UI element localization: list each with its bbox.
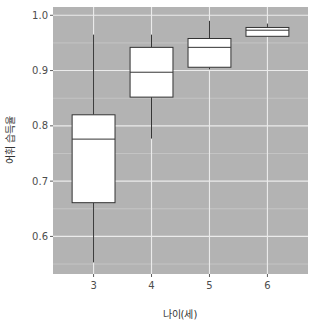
box-iqr (188, 39, 231, 68)
x-axis: 3456 (90, 274, 270, 291)
box-iqr (72, 115, 115, 203)
x-tick-label: 3 (90, 280, 96, 291)
x-tick-label: 5 (206, 280, 212, 291)
x-tick-label: 4 (148, 280, 154, 291)
boxplot-chart: 0.60.70.80.91.0 3456 나이(세) 어휘 습득율 (0, 0, 318, 327)
y-tick-label: 0.8 (32, 120, 48, 131)
y-tick-label: 0.9 (32, 65, 48, 76)
y-tick-label: 1.0 (32, 10, 48, 21)
y-axis: 0.60.70.80.91.0 (32, 10, 53, 242)
x-axis-title: 나이(세) (163, 309, 198, 320)
x-tick-label: 6 (264, 280, 270, 291)
y-axis-title: 어휘 습득율 (5, 116, 16, 164)
y-tick-label: 0.7 (32, 176, 48, 187)
y-tick-label: 0.6 (32, 231, 48, 242)
box-iqr (246, 27, 289, 36)
